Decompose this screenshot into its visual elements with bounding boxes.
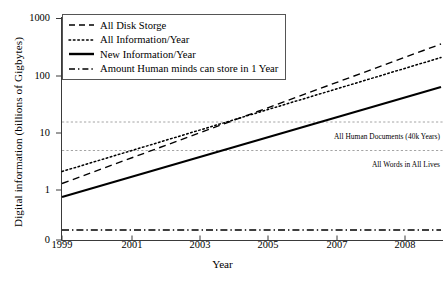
- legend-label-human-minds-storage: Amount Human minds can store in 1 Year: [100, 63, 278, 74]
- legend-item-human-minds-storage: Amount Human minds can store in 1 Year: [68, 62, 278, 77]
- legend-key-solid-icon: [68, 49, 95, 59]
- y-axis-ticks: [56, 19, 62, 241]
- legend-label-new-information-per-year: New Information/Year: [100, 49, 196, 60]
- legend-item-all-information-per-year: All Information/Year: [68, 33, 278, 48]
- chart-legend: All Disk Storge All Information/Year New…: [62, 14, 286, 80]
- x-axis-ticks: [62, 236, 405, 241]
- chart-figure: Digital information (billions of Gigbyte…: [0, 0, 445, 287]
- legend-label-all-information-per-year: All Information/Year: [100, 34, 189, 45]
- legend-key-dash-dot-icon: [68, 64, 95, 74]
- series-line-new-information-per-year: [62, 87, 441, 197]
- legend-key-dashed-icon: [68, 20, 95, 30]
- legend-item-new-information-per-year: New Information/Year: [68, 47, 278, 62]
- legend-key-dotted-icon: [68, 35, 95, 45]
- legend-item-all-disk-storge: All Disk Storge: [68, 18, 278, 33]
- legend-label-all-disk-storge: All Disk Storge: [100, 20, 166, 31]
